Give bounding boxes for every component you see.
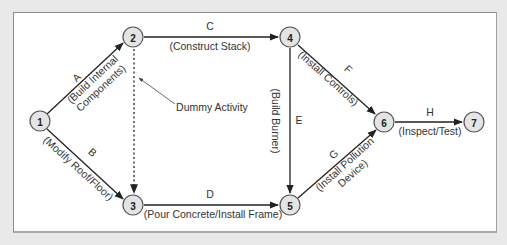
activity-f-letter: F [342, 62, 355, 75]
activity-c-letter: C [206, 20, 214, 32]
dummy-pointer-arrow [139, 78, 175, 104]
node-3: 3 [123, 195, 143, 215]
svg-text:5: 5 [287, 201, 293, 212]
activity-h-desc: (Inspect/Test) [398, 125, 461, 137]
node-1: 1 [30, 111, 50, 131]
activity-c-desc: (Construct Stack) [169, 40, 250, 52]
svg-text:6: 6 [381, 118, 387, 129]
activity-e-desc: (Build Burner) [270, 89, 282, 154]
activity-b-letter: B [86, 145, 99, 159]
svg-text:7: 7 [471, 118, 477, 129]
activity-f-desc: (Install Controls) [296, 48, 361, 108]
dummy-activity-label: Dummy Activity [176, 101, 249, 113]
svg-text:1: 1 [37, 117, 43, 128]
activity-h-letter: H [426, 106, 434, 118]
activity-d-desc: (Pour Concrete/Install Frame) [144, 208, 282, 220]
node-7: 7 [464, 112, 484, 132]
node-5: 5 [280, 195, 300, 215]
svg-text:3: 3 [130, 201, 136, 212]
node-4: 4 [280, 27, 300, 47]
node-2: 2 [123, 27, 143, 47]
activity-d-letter: D [206, 188, 214, 200]
network-diagram: 1 2 3 4 5 6 7 A (Build Internal Componen… [0, 0, 507, 245]
node-6: 6 [374, 112, 394, 132]
svg-text:2: 2 [130, 33, 136, 44]
activity-e-letter: E [295, 114, 302, 126]
svg-text:4: 4 [287, 33, 293, 44]
activity-b-desc: (Modify Roof/Floor) [41, 134, 116, 203]
activity-g-letter: G [326, 147, 340, 161]
